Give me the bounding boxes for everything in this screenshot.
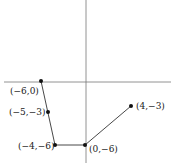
label-neg6-0: (−6,0) — [10, 86, 39, 96]
coordinate-plane: (−6,0) (−5,−3) (−4,−6) (0,−6) (4,−3) — [0, 0, 171, 163]
point-0-neg6 — [83, 143, 87, 147]
label-neg5-neg3: (−5,−3) — [9, 107, 45, 117]
label-4-neg3: (4,−3) — [136, 101, 165, 111]
label-0-neg6: (0,−6) — [89, 144, 118, 154]
label-neg4-neg6: (−4,−6) — [18, 141, 54, 151]
point-4-neg3 — [129, 104, 133, 108]
point-neg5-neg3 — [46, 110, 50, 114]
point-neg6-0 — [39, 79, 43, 83]
